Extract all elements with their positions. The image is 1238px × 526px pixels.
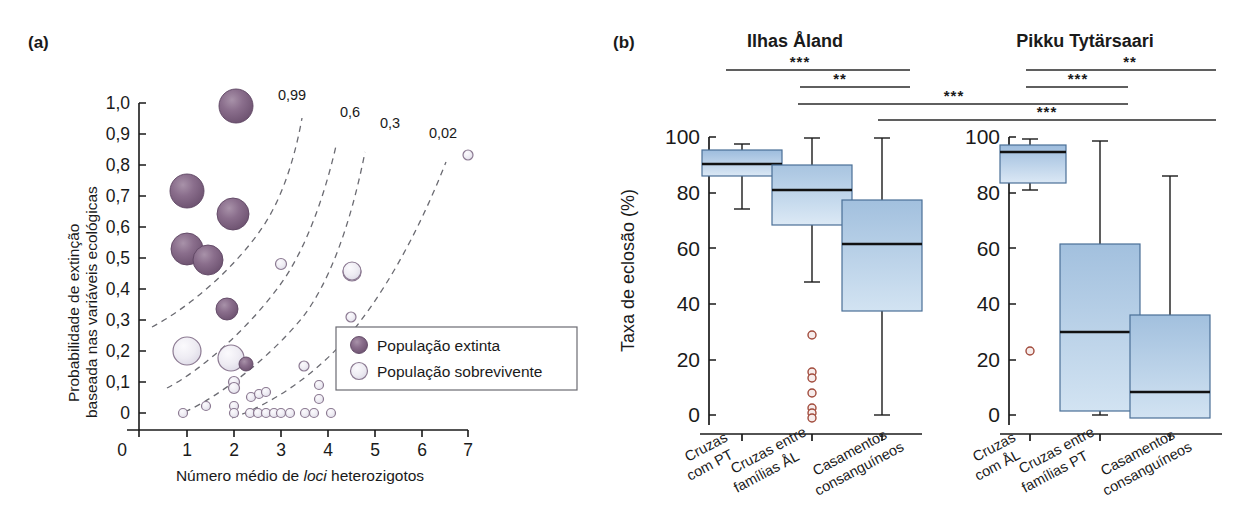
x-tick-label: 4 [323, 440, 333, 460]
y-tick-label: 20 [977, 348, 1000, 371]
outlier-point [1026, 347, 1034, 355]
data-point-filled [216, 298, 238, 320]
legend-label-survivor: População sobrevivente [377, 363, 542, 380]
panel-a-y-tick-labels: 1,0 0,9 0,8 0,7 0,6 0,5 0,4 0,3 0,2 0,1 … [106, 93, 131, 423]
y-tick-label: 0,4 [106, 279, 131, 299]
panel-a-y-axis-title-line1: Probabilidade de extinção [65, 224, 82, 402]
x-tick-label: 7 [463, 440, 473, 460]
y-tick-label: 0,9 [106, 124, 130, 144]
y-tick-label: 60 [977, 237, 1000, 260]
y-tick-label: 0,5 [106, 248, 130, 268]
x-tick-label: 6 [417, 440, 427, 460]
panel-a-y-axis-title-line2: baseada nas variáveis ecológicas [83, 186, 100, 418]
outlier-point [808, 389, 816, 397]
data-point-open [315, 395, 324, 404]
figure-root: (a) Probabilidade de extinção baseada na… [0, 0, 1238, 526]
data-point-open [276, 259, 287, 270]
data-point-filled [170, 174, 204, 208]
data-point-filled [193, 245, 223, 275]
legend-marker-extinct-icon [351, 337, 368, 354]
x-tick-label: 0 [117, 440, 127, 460]
y-tick-label: 40 [677, 292, 700, 315]
y-tick-label: 0 [988, 403, 1000, 426]
data-point-filled [217, 198, 249, 230]
y-tick-label: 0,8 [106, 155, 130, 175]
x-axis-title-post: heterozigotos [327, 467, 425, 484]
data-point-open [301, 409, 310, 418]
significance-star: *** [1037, 103, 1058, 120]
y-tick-label: 60 [677, 237, 700, 260]
box-iqr [1130, 315, 1210, 418]
y-tick-label: 0 [120, 403, 130, 423]
box-iqr [842, 200, 922, 311]
figure-svg: (a) Probabilidade de extinção baseada na… [0, 0, 1238, 526]
y-tick-label: 1,0 [106, 93, 131, 113]
x-tick-label: 3 [276, 440, 286, 460]
significance-star: *** [790, 53, 811, 70]
data-point-open [346, 312, 356, 322]
y-tick-label: 0,2 [106, 341, 130, 361]
y-tick-label: 80 [977, 181, 1000, 204]
data-point-open [179, 409, 188, 418]
data-point-open [202, 402, 211, 411]
significance-star: *** [944, 87, 965, 104]
panel-a-x-axis-title: Número médio de loci heterozigotos [176, 467, 424, 484]
site-title-pikku: Pikku Tytärsaari [1016, 31, 1154, 51]
x-tick-label: 5 [370, 440, 380, 460]
outlier-point [808, 414, 816, 422]
box-iqr [772, 165, 852, 225]
data-point-open [343, 262, 361, 280]
panel-b-y-axis-title: Taxa de eclosão (%) [618, 189, 638, 352]
data-point-open [327, 409, 336, 418]
panel-b-tag: (b) [613, 33, 635, 52]
x-tick-label: 2 [229, 440, 239, 460]
x-axis-title-pre: Número médio de [176, 467, 304, 484]
panel-a-legend[interactable]: População extinta População sobrevivente [336, 327, 577, 390]
curve-label-0.3: 0,3 [380, 115, 400, 131]
data-point-open [229, 383, 240, 394]
significance-star: ** [1123, 53, 1137, 70]
data-point-filled [239, 357, 253, 371]
outlier-point [808, 374, 816, 382]
y-tick-label: 20 [677, 348, 700, 371]
panel-a-tag: (a) [28, 33, 49, 52]
curve-label-0.6: 0,6 [340, 104, 360, 120]
outlier-point [808, 331, 816, 339]
significance-star: *** [1068, 70, 1089, 87]
y-tick-label: 40 [977, 292, 1000, 315]
curve-label-0.02: 0,02 [429, 125, 457, 141]
curve-label-0.99: 0,99 [278, 87, 306, 103]
data-point-filled [219, 89, 253, 123]
data-point-open [315, 381, 324, 390]
y-tick-label: 0 [688, 403, 700, 426]
data-point-open-large [173, 337, 201, 365]
y-tick-label: 0,1 [106, 372, 130, 392]
significance-star: ** [833, 70, 847, 87]
data-point-open [277, 409, 286, 418]
site-title-aland: Ilhas Åland [747, 31, 843, 51]
x-axis-title-italic: loci [303, 467, 327, 484]
legend-marker-survivor-icon [351, 363, 368, 380]
data-point-open [463, 150, 473, 160]
y-tick-label: 100 [665, 125, 700, 148]
x-tick-label: 1 [182, 440, 192, 460]
data-point-open [310, 409, 319, 418]
data-point-open [262, 388, 271, 397]
data-point-open [299, 361, 309, 371]
legend-label-extinct: População extinta [377, 337, 501, 354]
data-point-open [286, 409, 295, 418]
y-tick-label: 0,7 [106, 186, 130, 206]
y-tick-label: 0,6 [106, 217, 130, 237]
y-tick-label: 100 [965, 125, 1000, 148]
y-tick-label: 80 [677, 181, 700, 204]
y-tick-label: 0,3 [106, 310, 130, 330]
box-iqr [1060, 244, 1140, 411]
data-point-open [230, 409, 239, 418]
